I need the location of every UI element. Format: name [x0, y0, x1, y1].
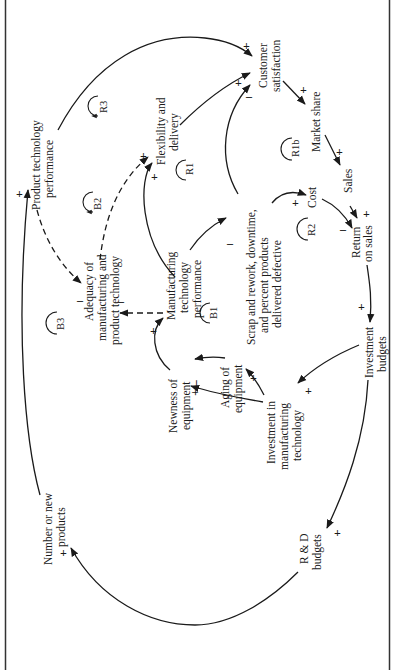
sign-plus: + — [305, 384, 312, 398]
node-investment-in-manufacturing-technology: Investment in manufacturing technology — [265, 401, 304, 470]
link-product-tech-to-adequacy — [37, 210, 81, 283]
link-return-to-investment-budgets — [367, 265, 371, 322]
svg-text:on sales: on sales — [362, 225, 374, 262]
loop-r1b: R1b — [281, 138, 301, 160]
svg-text:Cost: Cost — [306, 186, 318, 208]
svg-text:Adequacy of: Adequacy of — [83, 262, 96, 321]
loop-r2: R2 — [297, 218, 317, 240]
sign-plus-minus: + – — [188, 379, 202, 396]
loop-b3: B3 — [46, 312, 66, 334]
node-investment-budgets: Investment budgets — [363, 326, 389, 378]
link-scrap-to-cost — [272, 193, 306, 203]
svg-text:technology: technology — [291, 410, 304, 461]
svg-text:Aging of: Aging of — [219, 367, 232, 408]
sign-plus: + — [336, 145, 343, 159]
svg-text:Investment in: Investment in — [265, 401, 277, 464]
sign-minus: – — [245, 89, 253, 103]
sign-plus: + — [334, 526, 341, 540]
node-market-share: Market share — [310, 92, 322, 152]
sign-plus: + — [150, 324, 157, 338]
loop-r1: R1 — [176, 160, 195, 180]
loop-label-b2: B2 — [92, 198, 103, 210]
link-investment-budgets-to-rd — [327, 380, 368, 528]
node-aging-of-equipment: Aging of equipment — [219, 364, 245, 413]
svg-text:delivery: delivery — [168, 113, 181, 151]
loop-label-b3: B3 — [55, 318, 66, 330]
svg-text:budgets: budgets — [376, 336, 389, 372]
svg-text:performance: performance — [191, 260, 204, 318]
svg-text:Investment: Investment — [363, 326, 375, 378]
node-flexibility-and-delivery: Flexibility and delivery — [155, 97, 181, 165]
loop-r3: R3 — [88, 96, 109, 116]
svg-text:Scrap and rework, downtime,: Scrap and rework, downtime, — [245, 209, 258, 345]
node-manufacturing-technology-performance: Manufacturing technology performance — [165, 251, 204, 320]
svg-text:Return: Return — [350, 226, 362, 258]
svg-text:and percent products: and percent products — [258, 237, 271, 333]
svg-text:Number or new: Number or new — [42, 492, 54, 565]
sign-plus: + — [60, 546, 67, 560]
node-cost: Cost — [306, 186, 318, 208]
svg-text:Newness of: Newness of — [167, 379, 179, 433]
sign-minus: – — [76, 293, 84, 307]
svg-text:Manufacturing: Manufacturing — [165, 251, 178, 320]
sign-plus: + — [250, 371, 257, 385]
node-sales: Sales — [342, 168, 354, 193]
sign-plus: + — [358, 300, 365, 314]
sign-minus: – — [117, 294, 125, 308]
link-rd-to-new-products — [71, 548, 298, 625]
svg-text:satisfaction: satisfaction — [270, 39, 282, 92]
svg-text:Market share: Market share — [310, 92, 322, 152]
sign-plus: + — [292, 196, 299, 210]
svg-text:Flexibility and: Flexibility and — [155, 97, 168, 165]
link-mfg-performance-to-scrap — [190, 218, 226, 250]
link-investment-budgets-to-investment-mfg — [298, 345, 359, 383]
svg-text:technology: technology — [178, 262, 191, 313]
sign-plus: + — [300, 83, 307, 97]
svg-text:R & D: R & D — [298, 533, 310, 564]
svg-text:Sales: Sales — [342, 168, 354, 193]
link-aging-to-newness — [195, 357, 225, 359]
svg-text:equipment: equipment — [232, 364, 245, 413]
causal-loop-diagram: R3 B2 R1 R1b R2 B1 B3 Product technology… — [0, 0, 395, 670]
node-customer-satisfaction: Customer satisfaction — [257, 39, 282, 92]
sign-plus: + — [243, 39, 250, 53]
loop-label-b1: B1 — [208, 307, 219, 319]
sign-minus: – — [226, 236, 234, 250]
node-adequacy-of-manufacturing-and-product-technology: Adequacy of manufacturing and product te… — [83, 254, 122, 345]
loop-label-r1: R1 — [184, 163, 195, 175]
svg-text:Product technology: Product technology — [30, 120, 43, 210]
svg-text:manufacturing: manufacturing — [278, 403, 291, 470]
link-adequacy-to-flexibility — [100, 157, 148, 260]
link-new-products-to-product-tech — [22, 190, 40, 495]
svg-text:Customer: Customer — [257, 43, 269, 88]
link-newness-to-mfg-performance — [155, 318, 170, 370]
svg-text:products: products — [55, 507, 68, 547]
loop-b2: B2 — [83, 192, 103, 212]
link-cost-to-return — [322, 199, 352, 228]
sign-minus: – — [339, 222, 347, 236]
sign-plus: + — [16, 187, 23, 201]
svg-text:performance: performance — [43, 140, 56, 198]
svg-text:delivered defective: delivered defective — [271, 240, 283, 328]
node-return-on-sales: Return on sales — [350, 225, 374, 262]
loop-label-r1b: R1b — [290, 139, 301, 157]
link-sales-to-return — [350, 206, 357, 218]
svg-text:budgets: budgets — [311, 534, 324, 570]
loop-label-r2: R2 — [306, 224, 317, 236]
sign-plus: + — [363, 207, 370, 221]
sign-plus: + — [151, 170, 158, 184]
svg-text:manufacturing and: manufacturing and — [96, 254, 109, 341]
loop-label-r3: R3 — [98, 101, 109, 113]
sign-plus: + — [140, 149, 147, 163]
node-scrap-rework-defective: Scrap and rework, downtime, and percent … — [245, 209, 283, 345]
sign-plus: + — [235, 76, 242, 90]
node-product-technology-performance: Product technology performance — [30, 120, 56, 210]
node-rd-budgets: R & D budgets — [298, 533, 324, 570]
